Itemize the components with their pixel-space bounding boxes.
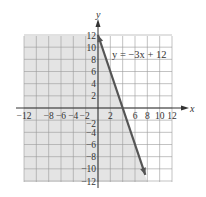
svg-text:−12: −12 [17,111,32,121]
svg-text:6: 6 [91,67,96,77]
x-axis-label: x [189,103,195,114]
svg-text:−4: −4 [68,111,78,121]
graph: −12−8−6−4−2268101212108642−2−4−6−8−10−12… [0,0,206,197]
equation-label: y = −3x + 12 [112,49,167,60]
svg-text:−8: −8 [44,111,54,121]
svg-text:12: 12 [167,111,177,121]
svg-text:8: 8 [145,111,150,121]
svg-text:6: 6 [133,111,138,121]
svg-text:2: 2 [91,91,96,101]
svg-text:−6: −6 [86,140,96,150]
svg-text:−8: −8 [86,152,96,162]
svg-text:−6: −6 [56,111,66,121]
svg-text:8: 8 [91,55,96,65]
y-axis-label: y [95,9,101,20]
svg-text:10: 10 [87,43,97,53]
svg-text:−4: −4 [86,128,96,138]
svg-text:10: 10 [155,111,165,121]
svg-text:4: 4 [91,79,96,89]
svg-text:2: 2 [108,111,113,121]
svg-text:12: 12 [87,31,97,41]
svg-text:−12: −12 [81,177,96,187]
svg-text:−10: −10 [81,164,96,174]
